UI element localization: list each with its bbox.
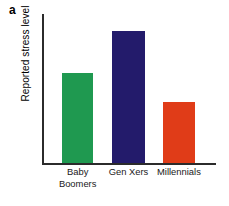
bar-millennials — [163, 102, 195, 163]
x-axis-line — [42, 163, 216, 165]
y-axis-line — [42, 14, 44, 163]
plot-area — [42, 14, 216, 163]
figure-panel-a: a Reported stress level BabyBoomers Gen … — [0, 0, 229, 206]
tick-label-millennials: Millennials — [139, 166, 219, 178]
bar-baby-boomers — [62, 73, 93, 163]
panel-label: a — [9, 4, 16, 16]
x-axis-tick-labels: BabyBoomers Gen Xers Millennials — [42, 166, 216, 206]
bar-gen-xers — [112, 31, 145, 163]
y-axis-title: Reported stress level — [20, 0, 31, 129]
